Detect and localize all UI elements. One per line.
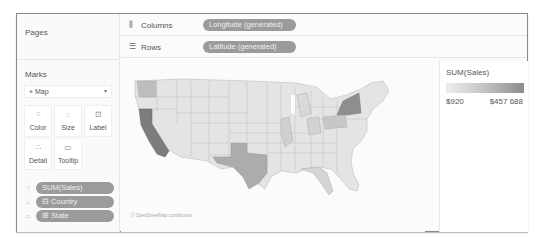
detail-label: Detail [25, 157, 51, 164]
mark-type-dropdown[interactable]: ⌖ Map ▾ [24, 85, 112, 98]
map-view[interactable]: © OpenStreetMap contributors [121, 61, 425, 232]
tooltip-icon: ▭ [55, 143, 81, 153]
legend-gradient [446, 83, 524, 93]
color-icon: ⁘ [25, 110, 51, 120]
rows-icon: ☰ [129, 42, 136, 51]
legend-max: $457 688 [490, 97, 523, 106]
chevron-down-icon: ▾ [104, 86, 107, 97]
label-button[interactable]: ⊡ Label [84, 105, 112, 137]
marks-title: Marks [25, 70, 47, 79]
state-field[interactable]: ∴ ⊞ State [24, 210, 114, 222]
shelves: ⫼ Columns Longitude (generated) ☰ Rows L… [121, 14, 527, 60]
color-legend[interactable]: SUM(Sales) $920 $457 688 [439, 61, 528, 232]
legend-title: SUM(Sales) [446, 68, 489, 77]
tooltip-label: Tooltip [55, 157, 81, 164]
tableau-worksheet: Pages ⫼ Columns Longitude (generated) ☰ … [16, 13, 528, 232]
columns-shelf[interactable]: ⫼ Columns Longitude (generated) [121, 14, 527, 36]
rows-shelf[interactable]: ☰ Rows Latitude (generated) [121, 36, 527, 58]
size-icon: ◌ [55, 110, 81, 120]
detail-icon: ∴ [25, 143, 51, 153]
color-button[interactable]: ⁘ Color [24, 105, 52, 137]
sum-sales-pill[interactable]: SUM(Sales) [36, 182, 114, 194]
legend-min: $920 [446, 97, 464, 106]
map-attribution[interactable]: © OpenStreetMap contributors [131, 213, 192, 218]
label-label: Label [85, 124, 111, 131]
state-pill[interactable]: ⊞ State [36, 210, 114, 222]
rows-label: Rows [141, 43, 161, 52]
detail-encoding-icon: ∴ [26, 198, 30, 205]
color-label: Color [25, 124, 51, 131]
mark-type-value: Map [35, 88, 49, 95]
latitude-pill[interactable]: Latitude (generated) [203, 41, 296, 53]
marks-card: Marks ⌖ Map ▾ ⁘ Color ◌ Size ⊡ Label ∴ D… [17, 61, 120, 232]
columns-icon: ⫼ [129, 20, 133, 30]
country-field[interactable]: ∴ ⊟ Country [24, 196, 114, 208]
longitude-pill[interactable]: Longitude (generated) [203, 19, 296, 31]
columns-label: Columns [141, 21, 173, 30]
us-states-map[interactable] [121, 61, 425, 232]
detail-encoding-icon: ∴ [26, 212, 30, 219]
label-icon: ⊡ [85, 110, 111, 120]
country-pill[interactable]: ⊟ Country [36, 196, 114, 208]
pages-shelf[interactable]: Pages [17, 14, 120, 60]
sum-sales-field[interactable]: ⁘ SUM(Sales) [24, 182, 114, 194]
detail-button[interactable]: ∴ Detail [24, 138, 52, 170]
size-button[interactable]: ◌ Size [54, 105, 82, 137]
color-encoding-icon: ⁘ [26, 184, 31, 191]
tooltip-button[interactable]: ▭ Tooltip [54, 138, 82, 170]
pages-title: Pages [25, 28, 48, 37]
size-label: Size [55, 124, 81, 131]
